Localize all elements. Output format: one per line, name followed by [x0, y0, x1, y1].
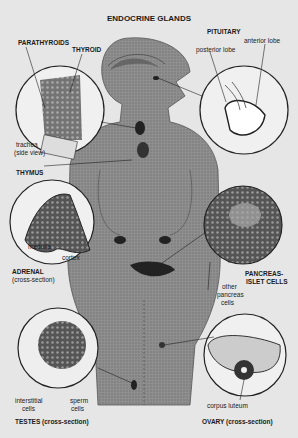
label-trachea: trachea — [16, 141, 38, 148]
label-cortex: cortex — [62, 254, 80, 261]
label-corpus-luteum: corpus luteum — [207, 402, 248, 409]
label-pancreas: PANCREAS- — [245, 270, 283, 277]
label-pancreas-cells: pancreas — [217, 291, 244, 298]
label-trachea-side-view: (side view) — [14, 149, 45, 156]
label-interstitial: interstitial — [15, 397, 42, 404]
label-medulla: medulla — [28, 243, 51, 250]
label-cells: cells — [221, 299, 234, 306]
label-adrenal: ADRENAL — [12, 268, 44, 275]
label-ovary: OVARY (cross-section) — [202, 418, 273, 425]
diagram-artwork — [0, 0, 298, 438]
label-posterior-lobe: posterior lobe — [196, 46, 235, 53]
label-testes: TESTES (cross-section) — [15, 418, 89, 425]
label-other: other — [222, 283, 237, 290]
thyroid-gland — [135, 121, 145, 135]
label-pituitary: PITUITARY — [207, 28, 241, 35]
label-sperm-cells: cells — [71, 405, 84, 412]
thymus-gland — [137, 142, 149, 158]
label-parathyroids: PARATHYROIDS — [18, 39, 69, 46]
label-thymus: THYMUS — [16, 169, 43, 176]
label-interstitial-cells: cells — [22, 405, 35, 412]
diagram-title: ENDOCRINE GLANDS — [0, 14, 298, 23]
label-thyroid: THYROID — [72, 46, 101, 53]
label-sperm: sperm — [70, 397, 88, 404]
label-adrenal-cross-section: (cross-section) — [12, 276, 55, 283]
label-anterior-lobe: anterior lobe — [244, 37, 280, 44]
label-islet-cells: ISLET CELLS — [246, 278, 288, 285]
testis — [131, 380, 137, 390]
